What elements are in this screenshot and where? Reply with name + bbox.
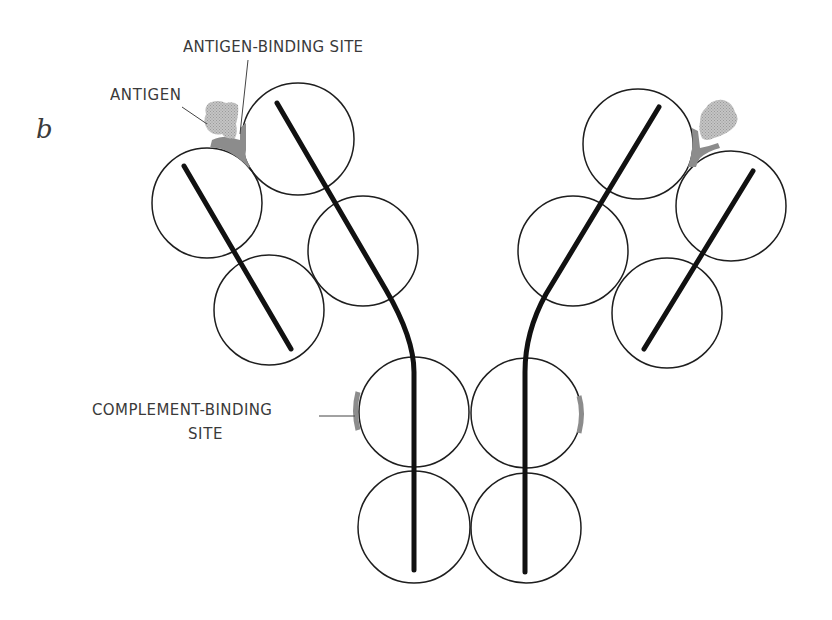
antigen-leader-line xyxy=(182,107,207,124)
left-arm xyxy=(152,83,418,365)
left-antigen-binding-site xyxy=(204,101,250,168)
right-arm xyxy=(518,89,786,368)
left-heavy-chain xyxy=(277,103,414,570)
right-antigen-binding-site xyxy=(688,100,738,167)
complement-binding-site-label-line2: SITE xyxy=(188,426,223,442)
left-complement-binding-site xyxy=(356,392,359,430)
stem xyxy=(358,357,581,583)
antigen-label: ANTIGEN xyxy=(110,87,182,103)
complement-binding-site-label-line1: COMPLEMENT-BINDING xyxy=(92,402,272,418)
right-antigen-icon xyxy=(699,100,737,140)
polypeptide-chains xyxy=(184,103,753,572)
right-complement-binding-site xyxy=(579,396,582,433)
panel-letter: b xyxy=(36,116,53,142)
antigen-binding-site-label: ANTIGEN-BINDING SITE xyxy=(183,39,363,55)
left-antigen-icon xyxy=(204,101,238,139)
right-heavy-chain xyxy=(525,107,659,572)
